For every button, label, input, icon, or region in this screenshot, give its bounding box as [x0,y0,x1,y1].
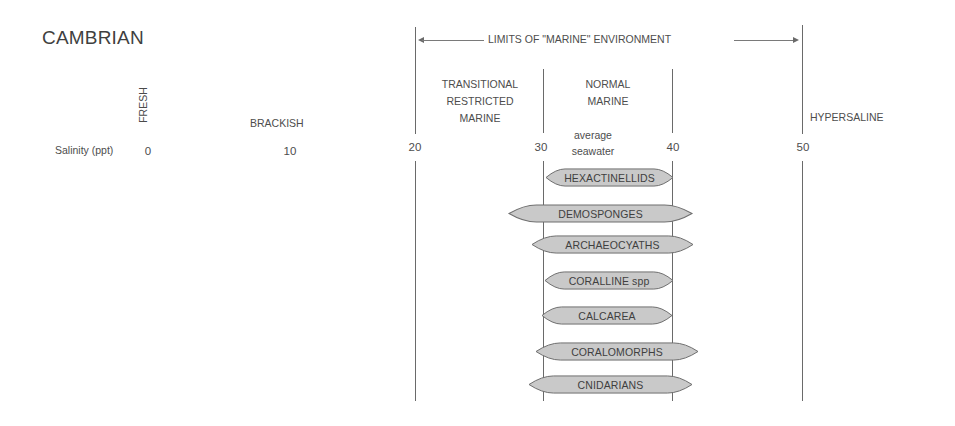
limits-label: LIMITS OF "MARINE" ENVIRONMENT [488,33,671,45]
zone-normal-line-2: MARINE [568,93,648,110]
average-line-1: average [553,127,633,143]
taxon-label: CORALLINE spp [545,271,673,290]
tick-0: 0 [145,145,151,157]
boundary-40-upper [672,69,673,133]
zone-fresh: FRESH [137,87,149,123]
taxon-demosponges: DEMOSPONGES [509,204,692,223]
taxon-label: CALCAREA [542,306,672,325]
taxon-label: DEMOSPONGES [509,204,692,223]
taxon-coralline: CORALLINE spp [545,271,673,290]
tick-10: 10 [284,145,297,157]
zone-hypersaline: HYPERSALINE [810,111,884,123]
tick-30: 30 [535,141,548,153]
taxon-label: ARCHAEOCYATHS [532,235,693,254]
limits-arrow-line-left [422,40,484,41]
boundary-50-upper [802,25,803,134]
boundary-30-lower [543,161,544,401]
boundary-20-lower [415,161,416,401]
arrow-right-icon [793,37,799,43]
boundary-20-upper [415,27,416,134]
zone-brackish: BRACKISH [250,117,304,129]
axis-label: Salinity (ppt) [55,144,113,156]
taxon-calcarea: CALCAREA [542,306,672,325]
average-line-2: seawater [553,143,633,159]
limits-arrow-line-right [734,40,794,41]
boundary-30-upper [543,69,544,133]
taxon-cnidarians: CNIDARIANS [529,375,692,394]
zone-transitional-line-2: RESTRICTED [425,93,535,110]
taxon-label: CORALOMORPHS [536,342,698,361]
zone-normal-marine: NORMAL MARINE [568,76,648,110]
taxon-hexactinellids: HEXACTINELLIDS [546,168,673,187]
boundary-50-lower [802,161,803,401]
taxon-label: CNIDARIANS [529,375,692,394]
tick-40: 40 [667,141,680,153]
average-seawater-label: average seawater [553,127,633,159]
tick-50: 50 [797,141,810,153]
diagram-title: CAMBRIAN [42,27,144,49]
zone-transitional-line-3: MARINE [425,110,535,127]
zone-normal-line-1: NORMAL [568,76,648,93]
taxon-coralomorphs: CORALOMORPHS [536,342,698,361]
zone-transitional: TRANSITIONAL RESTRICTED MARINE [425,76,535,127]
taxon-archaeocyaths: ARCHAEOCYATHS [532,235,693,254]
zone-transitional-line-1: TRANSITIONAL [425,76,535,93]
taxon-label: HEXACTINELLIDS [546,168,673,187]
tick-20: 20 [409,141,422,153]
